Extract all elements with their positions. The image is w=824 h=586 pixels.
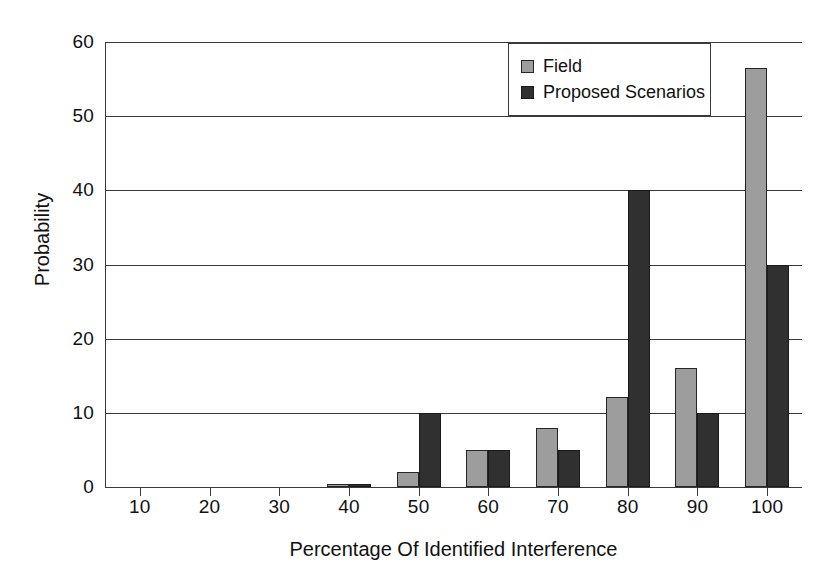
gridline-30 [105, 265, 802, 266]
y-tick-mark-40 [133, 190, 142, 191]
x-axis-title: Percentage Of Identified Interference [105, 538, 802, 561]
x-tick-mark-20 [210, 487, 211, 496]
bar-proposed-scenarios-70 [558, 450, 580, 487]
y-tick-label-40: 40 [50, 180, 94, 199]
bar-field-70 [536, 428, 558, 487]
gridline-50 [105, 116, 802, 117]
bar-field-90 [675, 368, 697, 487]
x-tick-mark-60 [488, 487, 489, 496]
gridline-40 [105, 190, 802, 191]
legend-item-field: Field [521, 53, 698, 79]
x-tick-label-90: 90 [687, 497, 709, 517]
x-tick-label-100: 100 [751, 497, 783, 517]
x-tick-mark-100 [767, 487, 768, 496]
bar-proposed-scenarios-90 [697, 413, 719, 487]
y-tick-label-60: 60 [50, 32, 94, 51]
y-tick-label-10: 10 [50, 403, 94, 422]
bar-field-40 [327, 484, 349, 487]
y-axis-title: Probability [31, 110, 54, 370]
y-tick-mark-50 [133, 116, 142, 117]
x-tick-mark-40 [349, 487, 350, 496]
bar-field-60 [466, 450, 488, 487]
x-tick-mark-30 [279, 487, 280, 496]
bar-field-50 [397, 472, 419, 487]
x-tick-label-10: 10 [129, 497, 151, 517]
bar-field-80 [606, 397, 628, 487]
y-tick-label-30: 30 [50, 255, 94, 274]
x-tick-label-40: 40 [338, 497, 360, 517]
chart-legend: FieldProposed Scenarios [508, 43, 711, 116]
x-tick-label-80: 80 [617, 497, 639, 517]
x-tick-mark-80 [628, 487, 629, 496]
legend-swatch-icon [521, 86, 534, 99]
x-axis-tick-labels: 102030405060708090100 [105, 497, 802, 527]
x-tick-mark-50 [419, 487, 420, 496]
y-tick-mark-30 [133, 265, 142, 266]
x-tick-mark-70 [558, 487, 559, 496]
bar-proposed-scenarios-60 [488, 450, 510, 487]
y-tick-mark-20 [133, 339, 142, 340]
x-tick-label-50: 50 [408, 497, 430, 517]
y-tick-mark-60 [133, 42, 142, 43]
gridline-20 [105, 339, 802, 340]
bar-chart: 0102030405060 Probability 10203040506070… [0, 0, 824, 586]
bar-field-100 [745, 68, 767, 487]
y-tick-mark-10 [133, 413, 142, 414]
x-tick-label-20: 20 [199, 497, 221, 517]
bar-proposed-scenarios-50 [419, 413, 441, 487]
y-tick-label-20: 20 [50, 329, 94, 348]
legend-item-proposed-scenarios: Proposed Scenarios [521, 79, 698, 105]
x-tick-mark-90 [697, 487, 698, 496]
legend-swatch-icon [521, 60, 534, 73]
bar-proposed-scenarios-100 [767, 265, 789, 488]
y-tick-label-0: 0 [50, 477, 94, 496]
x-tick-label-30: 30 [268, 497, 290, 517]
x-tick-mark-10 [140, 487, 141, 496]
legend-label: Field [543, 57, 582, 75]
x-tick-label-70: 70 [547, 497, 569, 517]
bar-proposed-scenarios-80 [628, 190, 650, 487]
legend-label: Proposed Scenarios [543, 83, 705, 101]
y-tick-label-50: 50 [50, 106, 94, 125]
x-tick-label-60: 60 [478, 497, 500, 517]
bar-proposed-scenarios-40 [349, 484, 371, 487]
